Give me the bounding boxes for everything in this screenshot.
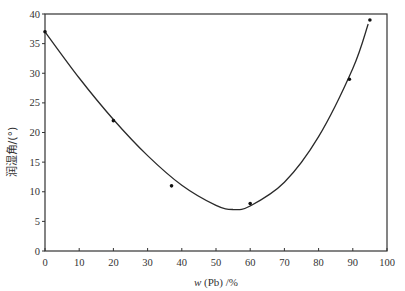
data-point <box>43 30 47 34</box>
y-tick-label: 15 <box>30 157 41 168</box>
plot-frame <box>45 14 387 251</box>
data-points <box>43 18 372 205</box>
y-tick-label: 10 <box>30 186 41 197</box>
fit-curve-path <box>45 24 368 210</box>
y-tick-label: 20 <box>30 127 41 138</box>
data-point <box>348 77 352 81</box>
y-axis-title-wrap: 润湿角/(°) <box>3 92 19 212</box>
x-tick-label: 80 <box>313 257 324 268</box>
y-axis-title: 润湿角/(°) <box>3 127 19 178</box>
x-tick-label: 10 <box>74 257 85 268</box>
x-tick-label: 20 <box>108 257 119 268</box>
y-tick-label: 40 <box>30 9 41 20</box>
x-tick-label: 50 <box>211 257 222 268</box>
data-point <box>112 119 116 123</box>
x-tick-label: 40 <box>177 257 188 268</box>
y-tick-label: 30 <box>30 68 41 79</box>
x-axis-title: w (Pb) /% <box>194 276 238 289</box>
y-tick-label: 35 <box>30 38 41 49</box>
x-tick-label: 60 <box>245 257 256 268</box>
x-tick-label: 90 <box>348 257 359 268</box>
x-tick-label: 100 <box>379 257 395 268</box>
x-tick-label: 0 <box>42 257 47 268</box>
data-point <box>368 18 372 22</box>
chart: 0510152025303540 0102030405060708090100 … <box>0 0 405 291</box>
data-point <box>248 202 252 206</box>
y-axis-ticks: 0510152025303540 <box>30 9 46 257</box>
plot-border <box>45 14 387 251</box>
y-tick-label: 5 <box>35 216 40 227</box>
y-tick-label: 25 <box>30 97 41 108</box>
x-tick-label: 70 <box>279 257 290 268</box>
y-tick-label: 0 <box>35 246 40 257</box>
fit-curve <box>45 24 368 210</box>
data-point <box>170 184 174 188</box>
x-tick-label: 30 <box>142 257 153 268</box>
